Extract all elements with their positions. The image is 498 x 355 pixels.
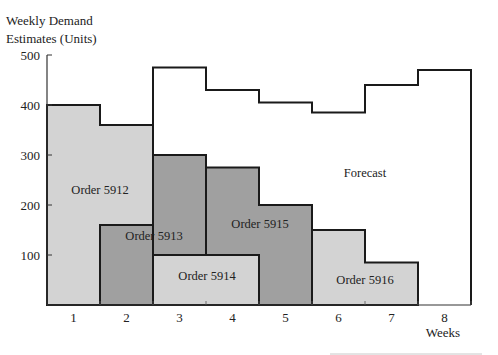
order-label: Order 5912	[71, 183, 128, 197]
bar-segment	[47, 105, 100, 305]
x-tick-label: 2	[123, 310, 130, 325]
x-tick-label: 5	[282, 310, 289, 325]
order-label: Order 5916	[336, 273, 393, 287]
x-tick-label: 1	[70, 310, 77, 325]
bar-segment	[206, 168, 259, 256]
order-label: Order 5914	[178, 269, 236, 283]
x-tick-label: 6	[335, 310, 342, 325]
demand-chart: 10020030040050012345678Weeks Order 5912O…	[0, 0, 498, 355]
y-tick-label: 400	[21, 98, 41, 113]
x-tick-label: 4	[229, 310, 236, 325]
x-tick-label: 3	[176, 310, 183, 325]
forecast-label: Forecast	[344, 166, 387, 180]
y-tick-label: 500	[21, 48, 41, 63]
y-tick-label: 300	[21, 148, 41, 163]
y-tick-label: 100	[21, 248, 41, 263]
x-axis-title: Weeks	[426, 325, 460, 340]
bar-segment	[100, 125, 153, 225]
order-label: Order 5915	[231, 217, 288, 231]
y-tick-label: 200	[21, 198, 41, 213]
order-label: Order 5913	[125, 229, 182, 243]
x-tick-label: 8	[441, 310, 448, 325]
bar-segment	[312, 230, 365, 305]
x-tick-label: 7	[388, 310, 395, 325]
